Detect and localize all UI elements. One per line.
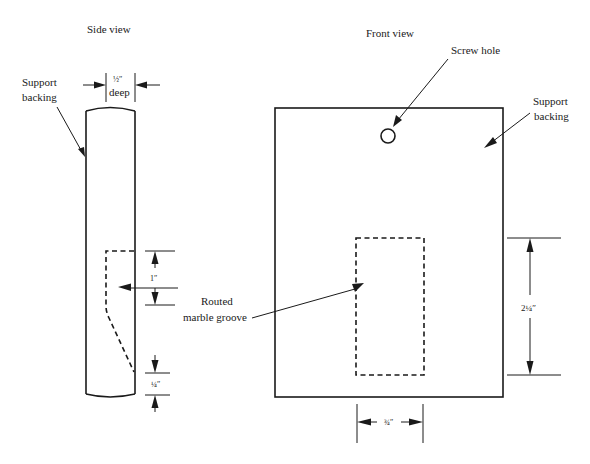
front-groove-outline: [356, 238, 424, 375]
front-board-outline: [275, 108, 503, 397]
side-support-label-2: backing: [22, 91, 57, 103]
screw-hole: [381, 129, 395, 143]
groove-width-dimension: ¾″: [357, 404, 423, 443]
front-support-label-1: Support: [533, 95, 568, 107]
front-view-title: Front view: [366, 27, 414, 39]
groove-width-value: ¾″: [384, 418, 393, 427]
side-support-leader-arrow: [57, 107, 85, 157]
screw-hole-leader-arrow: [393, 59, 448, 127]
groove-height-dimension-front: 2¼″: [507, 238, 561, 375]
groove-height-dimension-side: 1″: [145, 251, 175, 305]
depth-value: ½″: [113, 75, 122, 84]
side-board-outline: [86, 108, 135, 398]
front-support-label-2: backing: [534, 110, 569, 122]
front-support-leader-arrow: [484, 113, 530, 148]
depth-dimension: ½″ deep: [83, 73, 160, 102]
side-groove-profile: [106, 251, 134, 372]
side-support-label-1: Support: [22, 76, 57, 88]
front-view: Front view Screw hole Support backing 2¼…: [275, 27, 569, 443]
depth-label: deep: [109, 86, 130, 98]
side-view-title: Side view: [87, 23, 131, 35]
bottom-offset-dimension: ¼″: [145, 355, 170, 412]
groove-label-2: marble groove: [183, 311, 247, 323]
screw-hole-label: Screw hole: [451, 44, 500, 56]
groove-label-1: Routed: [201, 295, 233, 307]
groove-height-value-front: 2¼″: [521, 303, 536, 313]
groove-height-value-side: 1″: [150, 274, 157, 283]
marble-groove-diagram: Side view Support backing ½″ deep: [0, 0, 590, 464]
side-view: Side view Support backing ½″ deep: [22, 23, 175, 412]
bottom-offset-value: ¼″: [151, 380, 160, 389]
